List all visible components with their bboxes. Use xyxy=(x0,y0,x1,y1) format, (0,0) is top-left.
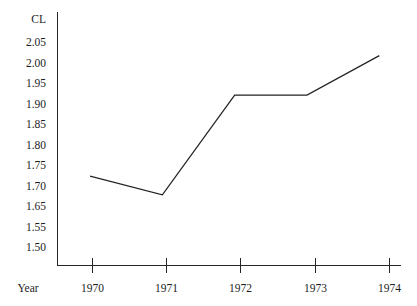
x-tick-label: 1972 xyxy=(229,282,252,294)
y-tick-label: 1.80 xyxy=(26,139,46,151)
y-tick-label: 1.55 xyxy=(26,221,46,233)
y-tick-label: 1.95 xyxy=(26,77,46,89)
x-axis-label: Year xyxy=(17,282,38,294)
y-tick-labels: 2.05 2.00 1.95 1.90 1.85 1.80 1.75 1.70 … xyxy=(26,36,46,253)
y-axis-label: CL xyxy=(31,13,46,25)
y-tick-label: 2.05 xyxy=(26,36,46,48)
x-tick-label: 1973 xyxy=(304,282,327,294)
y-tick-label: 2.00 xyxy=(26,57,46,69)
x-tick-label: 1970 xyxy=(81,282,104,294)
data-series-line xyxy=(90,56,379,195)
x-tick-label: 1971 xyxy=(155,282,178,294)
x-tick-label: 1974 xyxy=(378,282,401,294)
y-tick-label: 1.70 xyxy=(26,180,46,192)
y-tick-label: 1.90 xyxy=(26,98,46,110)
x-tick-labels: 1970 1971 1972 1973 1974 xyxy=(81,282,401,294)
y-tick-label: 1.65 xyxy=(26,200,46,212)
line-chart: CL 2.05 2.00 1.95 1.90 1.85 1.80 1.75 1.… xyxy=(0,0,417,306)
y-tick-label: 1.75 xyxy=(26,159,46,171)
y-tick-label: 1.85 xyxy=(26,118,46,130)
chart-container: CL 2.05 2.00 1.95 1.90 1.85 1.80 1.75 1.… xyxy=(0,0,417,306)
y-tick-label: 1.50 xyxy=(26,241,46,253)
